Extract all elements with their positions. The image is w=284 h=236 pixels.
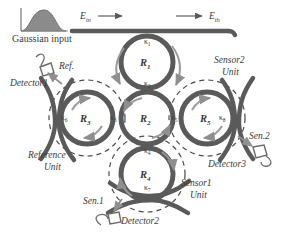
detector3-icon [253, 145, 271, 166]
sensor1-signal-label: Sen.1 [83, 196, 104, 206]
detector1-arrow [48, 73, 62, 84]
detector1-label: Detector1 [9, 78, 48, 88]
detector1-icon [36, 54, 54, 76]
coupling-label-k6: κ6 [61, 113, 68, 123]
sensor1-unit-label-line2: Unit [190, 190, 207, 200]
reference-unit-label-line2: Unit [44, 162, 61, 172]
ring-label-R3: R3 [79, 113, 91, 127]
gaussian-input-caption: Gaussian input [12, 33, 72, 44]
coupling-label-k7: κ7 [144, 183, 151, 193]
coupling-label-k2: κ2 [144, 79, 151, 89]
input-port-label: Ein [79, 11, 91, 23]
coupling-label-k5: κ5 [171, 113, 178, 123]
reference-signal-label: Ref. [58, 61, 74, 71]
sensor2-unit-label-line1: Sensor2 [214, 55, 245, 65]
gaussian-curve [21, 10, 66, 31]
R5-arrow-top [192, 98, 210, 110]
coupling-label-k8: κ8 [219, 113, 226, 123]
ring-label-R1: R1 [139, 57, 151, 71]
ring-label-R5: R5 [199, 113, 211, 127]
R3-arrow-bottom [84, 126, 102, 138]
detector3-label: Detector3 [207, 159, 246, 169]
R3-arrow-top [72, 98, 90, 110]
detector2-icon [96, 212, 121, 225]
sensor1-bus-waveguide [108, 181, 189, 213]
reference-bus-waveguide [41, 78, 74, 160]
ring-label-R2: R2 [139, 113, 151, 127]
through-port-label: Eth [208, 11, 220, 23]
ring-resonator-schematic: Gaussian input Ein Eth [0, 0, 284, 236]
sensor1-unit-label-line1: Sensor1 [181, 178, 212, 188]
sensor2-signal-label: Sen.2 [249, 131, 270, 141]
sensor2-unit-label-line2: Unit [222, 67, 239, 77]
detector2-label: Detector2 [120, 216, 159, 226]
R5-arrow-bottom [204, 126, 222, 138]
coupling-label-k3: κ3 [110, 113, 117, 123]
gaussian-input-source [21, 8, 68, 31]
ring-label-R4: R4 [139, 169, 151, 183]
reference-unit-label-line1: Reference [27, 150, 66, 160]
